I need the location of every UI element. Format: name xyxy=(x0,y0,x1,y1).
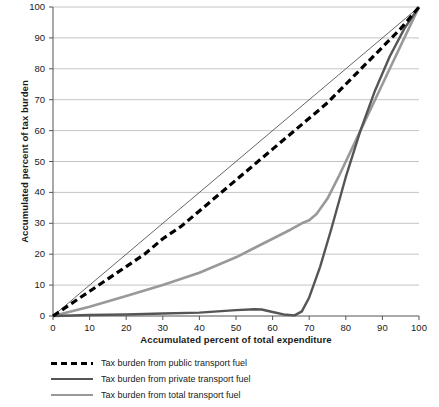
legend-item[interactable]: Tax burden from private transport fuel xyxy=(49,371,389,387)
legend-item[interactable]: Tax burden from total transport fuel xyxy=(49,387,389,403)
legend-line-swatch xyxy=(49,390,95,400)
legend-line-swatch xyxy=(49,358,95,368)
lorenz-chart: Accumulated percent of tax burden Accumu… xyxy=(0,0,439,407)
chart-legend: Tax burden from public transport fuelTax… xyxy=(49,355,389,403)
grid-lines xyxy=(53,7,419,285)
legend-label: Tax burden from public transport fuel xyxy=(101,358,247,368)
legend-label: Tax burden from total transport fuel xyxy=(101,390,241,400)
legend-label: Tax burden from private transport fuel xyxy=(101,374,251,384)
plot-area xyxy=(0,0,439,407)
legend-item[interactable]: Tax burden from public transport fuel xyxy=(49,355,389,371)
legend-line-swatch xyxy=(49,374,95,384)
